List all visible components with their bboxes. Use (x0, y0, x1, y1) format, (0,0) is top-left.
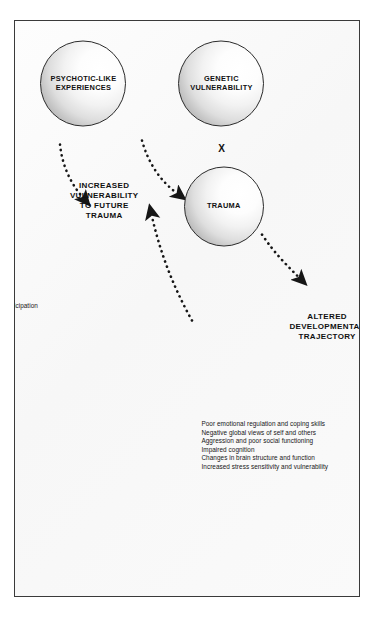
node-genetic-vulnerability-label: GENETIC VULNERABILITY (190, 74, 252, 91)
outcome-increased-vulnerability-heading: INCREASED VULNERABILITY TO FUTURE TRAUMA (42, 180, 166, 220)
node-trauma[interactable]: TRAUMA (184, 166, 264, 246)
outcome-increased-vulnerability-items: Hypervigilance and reactivity to threat … (14, 241, 195, 335)
node-psychotic-like-experiences[interactable]: PSYCHOTIC-LIKE EXPERIENCES (40, 40, 126, 126)
node-genetic-vulnerability[interactable]: GENETIC VULNERABILITY (178, 40, 264, 126)
arrow-trauma-to-altered-trajectory (262, 234, 298, 276)
outcome-altered-trajectory-heading: ALTERED DEVELOPMENTAL TRAJECTORY (267, 311, 360, 341)
node-trauma-label: TRAUMA (207, 202, 241, 211)
diagram-stage: GENETIC VULNERABILITY X TRAUMA PSYCHOTIC… (14, 20, 360, 597)
multiply-operator-label: X (219, 142, 226, 153)
node-psychotic-like-experiences-label: PSYCHOTIC-LIKE EXPERIENCES (50, 74, 116, 91)
outcome-altered-trajectory-items: Poor emotional regulation and coping ski… (201, 419, 360, 470)
figure-frame: GENETIC VULNERABILITY X TRAUMA PSYCHOTIC… (14, 20, 360, 597)
multiply-operator: X (210, 136, 234, 160)
